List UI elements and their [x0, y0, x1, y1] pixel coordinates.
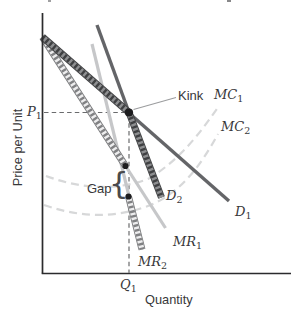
- mr1-label: MR1: [172, 234, 202, 251]
- mc1-label: MC1: [213, 87, 243, 104]
- q1-label: Q1: [120, 277, 137, 294]
- mr2-label: MR2: [137, 254, 167, 271]
- kinked-demand-figure: Kink Gap { MC1 MC2 D2 D1 MR1 MR2 P1 Q1 Q…: [0, 0, 303, 319]
- figure-canvas: Kink Gap { MC1 MC2 D2 D1 MR1 MR2 P1 Q1 Q…: [0, 0, 303, 319]
- crop-artifact-left: [48, 0, 51, 2]
- gap-brace: {: [109, 165, 129, 201]
- kink-pointer-line: [134, 98, 177, 110]
- crop-artifact-right: [227, 0, 231, 2]
- d1-label: D1: [234, 204, 251, 221]
- p1-label: P1: [26, 104, 42, 121]
- kink-point-dot: [125, 108, 133, 116]
- y-axis-title: Price per Unit: [10, 108, 25, 186]
- kink-label: Kink: [178, 88, 204, 103]
- mr-highlight-lower-band: [129, 197, 143, 250]
- gap-label: Gap: [87, 181, 112, 196]
- d2-label: D2: [165, 188, 182, 205]
- x-axis-title: Quantity: [145, 292, 193, 307]
- mc2-label: MC2: [220, 119, 250, 136]
